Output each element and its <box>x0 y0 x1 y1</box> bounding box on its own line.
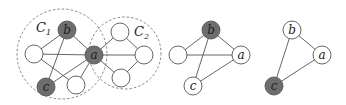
node-label-b: b <box>63 23 71 37</box>
node-l <box>25 45 43 63</box>
node-label-b: b <box>207 23 215 37</box>
node-label-c: c <box>190 79 197 93</box>
node-b2 <box>112 69 130 87</box>
community-label-c1: C1 <box>36 20 51 37</box>
node-label-a: a <box>90 48 97 62</box>
community-labels: C1C2 <box>36 20 149 41</box>
node-label-b: b <box>288 23 296 37</box>
community-label-c2: C2 <box>134 24 149 41</box>
graph-nodes: bacbacbac <box>25 21 331 96</box>
node-r2 <box>135 46 153 64</box>
node-label-a: a <box>237 48 244 62</box>
node-t2 <box>111 23 129 41</box>
node-label-a: a <box>318 48 325 62</box>
diagram-canvas: bacbacbac C1C2 <box>0 0 346 105</box>
node-label-c: c <box>271 79 278 93</box>
node-label-c: c <box>43 80 50 94</box>
node-m <box>67 76 85 94</box>
node-l <box>169 46 187 64</box>
